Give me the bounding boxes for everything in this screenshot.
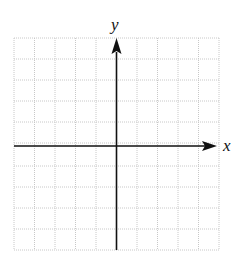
y-axis: [112, 38, 122, 250]
y-axis-arrow-icon: [112, 38, 122, 54]
y-axis-label: y: [109, 15, 119, 34]
coordinate-plane: x y: [0, 0, 232, 260]
x-axis-label: x: [222, 136, 231, 155]
